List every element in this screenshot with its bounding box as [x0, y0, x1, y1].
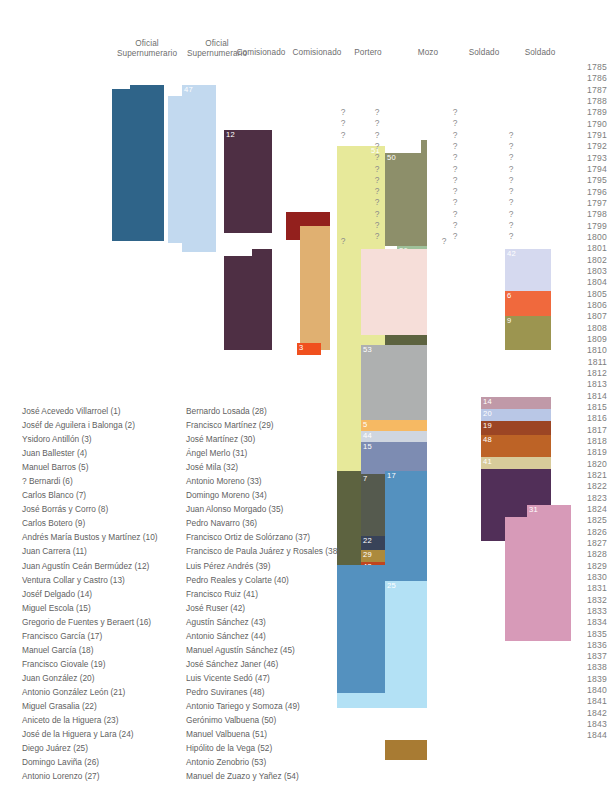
legend-item[interactable]: Manuel García (18) [22, 643, 182, 657]
legend-item[interactable]: Pedro Reales y Colarte (40) [186, 573, 366, 587]
legend-item[interactable]: Luis Vicente Sedó (47) [186, 671, 366, 685]
legend-item[interactable]: Gregorio de Fuentes y Beraert (16) [22, 615, 182, 629]
legend-item[interactable]: Antonio Moreno (33) [186, 474, 366, 488]
unknown-marker: ? [506, 186, 516, 197]
unknown-marker: ? [372, 141, 382, 152]
year-label: 1841 [573, 696, 607, 707]
legend-item[interactable]: Antonio Zenobrio (53) [186, 755, 366, 769]
legend-item[interactable]: Carlos Botero (9) [22, 516, 182, 530]
legend-item[interactable]: Francisco Ruiz (41) [186, 587, 366, 601]
legend-item[interactable]: Pedro Navarro (36) [186, 516, 366, 530]
legend-item[interactable]: Francisco Ortiz de Solórzano (37) [186, 530, 366, 544]
bar-label: 17 [387, 471, 396, 480]
timeline-bar[interactable]: 12 [224, 130, 272, 233]
legend-item[interactable]: Juan González (20) [22, 671, 182, 685]
legend-item[interactable]: Antonio Tariego y Somoza (49) [186, 699, 366, 713]
legend-item[interactable]: José Ruser (42) [186, 601, 366, 615]
timeline-bar[interactable] [224, 256, 272, 350]
legend-item[interactable]: Aniceto de la Higuera (23) [22, 713, 182, 727]
year-label: 1810 [573, 345, 607, 356]
unknown-marker: ? [450, 220, 460, 231]
timeline-bar[interactable]: 53 [361, 345, 427, 420]
timeline-bar[interactable]: 20 [481, 409, 551, 421]
timeline-bar[interactable]: 14 [481, 397, 551, 409]
legend-item[interactable]: Diego Juárez (25) [22, 741, 182, 755]
timeline-bar[interactable]: 15 [361, 442, 427, 474]
year-label: 1817 [573, 425, 607, 436]
timeline-bar[interactable]: 50 [385, 153, 427, 246]
timeline-bar[interactable] [252, 249, 272, 263]
timeline-bar[interactable]: 3 [297, 343, 321, 355]
legend-item[interactable]: José Acevedo Villarroel (1) [22, 404, 182, 418]
legend-item[interactable]: Antonio González León (21) [22, 685, 182, 699]
timeline-bar[interactable] [397, 740, 427, 760]
legend-item[interactable]: José de la Higuera y Lara (24) [22, 727, 182, 741]
legend-item[interactable]: Francisco de Paula Juárez y Rosales (38) [186, 544, 366, 558]
unknown-marker: ? [450, 130, 460, 141]
timeline-bar[interactable]: 41 [481, 457, 551, 469]
timeline-bar[interactable]: 48 [481, 435, 551, 457]
legend-item[interactable]: Domingo Moreno (34) [186, 488, 366, 502]
legend-item[interactable]: Agustín Sánchez (43) [186, 615, 366, 629]
timeline-bar[interactable] [505, 517, 571, 641]
year-label: 1794 [573, 164, 607, 175]
legend-item[interactable]: Luis Pérez Andrés (39) [186, 559, 366, 573]
timeline-bar[interactable]: 44 [361, 431, 427, 442]
legend-item[interactable]: José Martínez (30) [186, 432, 366, 446]
column-header: Comisionado [230, 48, 292, 58]
legend-item[interactable]: Joséf de Aguilera i Balonga (2) [22, 418, 182, 432]
timeline-bar[interactable] [300, 226, 330, 350]
year-label: 1834 [573, 617, 607, 628]
timeline-bar[interactable]: 5 [361, 420, 427, 431]
legend-item[interactable]: Antonio Lorenzo (27) [22, 769, 182, 783]
timeline-bar[interactable] [361, 249, 427, 335]
legend-item[interactable]: Juan Agustín Ceán Bermúdez (12) [22, 559, 182, 573]
year-label: 1785 [573, 62, 607, 73]
legend-item[interactable]: Bernardo Losada (28) [186, 404, 366, 418]
timeline-bar[interactable]: 25 [385, 581, 427, 708]
legend-item[interactable]: ? Bernardi (6) [22, 474, 182, 488]
legend-item[interactable]: Miguel Grasalia (22) [22, 699, 182, 713]
legend-item[interactable]: Manuel de Zuazo y Yañez (54) [186, 769, 366, 783]
legend-item[interactable]: Juan Alonso Morgado (35) [186, 502, 366, 516]
legend-item[interactable]: Carlos Blanco (7) [22, 488, 182, 502]
legend-item[interactable]: Manuel Barros (5) [22, 460, 182, 474]
legend-item[interactable]: Domingo Laviña (26) [22, 755, 182, 769]
legend-item[interactable]: Gerónimo Valbuena (50) [186, 713, 366, 727]
legend-item[interactable]: Miguel Escola (15) [22, 601, 182, 615]
timeline-bar[interactable]: 9 [505, 316, 551, 350]
timeline-bar[interactable] [168, 96, 216, 243]
year-label: 1790 [573, 119, 607, 130]
timeline-bar[interactable]: 6 [505, 291, 551, 316]
legend-item[interactable]: Manuel Valbuena (51) [186, 727, 366, 741]
legend-item[interactable]: Francisco García (17) [22, 629, 182, 643]
year-label: 1829 [573, 561, 607, 572]
legend-item[interactable]: José Mila (32) [186, 460, 366, 474]
legend-item[interactable]: Juan Ballester (4) [22, 446, 182, 460]
column-header: Soldado [512, 48, 568, 58]
timeline-bar[interactable] [421, 140, 427, 154]
unknown-marker: ? [506, 130, 516, 141]
year-label: 1805 [573, 289, 607, 300]
timeline-bar[interactable]: 19 [481, 421, 551, 435]
legend-item[interactable]: Pedro Suviranes (48) [186, 685, 366, 699]
legend-item[interactable]: José Sánchez Janer (46) [186, 657, 366, 671]
year-label: 1839 [573, 674, 607, 685]
year-label: 1799 [573, 221, 607, 232]
timeline-bar[interactable] [130, 85, 164, 93]
legend-item[interactable]: Hipólito de la Vega (52) [186, 741, 366, 755]
legend-item[interactable]: Juan Carrera (11) [22, 544, 182, 558]
legend-item[interactable]: Antonio Sánchez (44) [186, 629, 366, 643]
legend-item[interactable]: Andrés María Bustos y Martínez (10) [22, 530, 182, 544]
legend-item[interactable]: Ventura Collar y Castro (13) [22, 573, 182, 587]
timeline-bar[interactable]: 36 [112, 89, 164, 241]
column-header: Portero [340, 48, 396, 58]
unknown-marker: ? [338, 130, 348, 141]
legend-item[interactable]: Ángel Merlo (31) [186, 446, 366, 460]
legend-item[interactable]: Francisco Martínez (29) [186, 418, 366, 432]
legend-item[interactable]: Ysidoro Antillón (3) [22, 432, 182, 446]
legend-item[interactable]: Manuel Agustín Sánchez (45) [186, 643, 366, 657]
legend-item[interactable]: Joséf Delgado (14) [22, 587, 182, 601]
legend-item[interactable]: José Borrás y Corro (8) [22, 502, 182, 516]
legend-item[interactable]: Francisco Giovale (19) [22, 657, 182, 671]
